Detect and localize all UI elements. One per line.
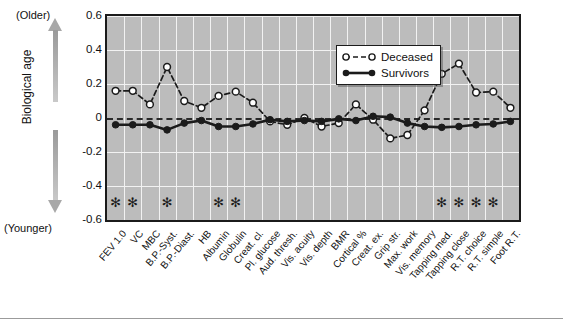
- data-point: [147, 101, 154, 108]
- legend-item-deceased: Deceased: [342, 49, 433, 65]
- data-point: [232, 88, 239, 95]
- y-tick-label: -0.6: [2, 213, 102, 225]
- data-point: [181, 120, 188, 127]
- data-point: [490, 88, 497, 95]
- data-point: [198, 117, 205, 124]
- plot-canvas: ✻✻✻✻✻✻✻✻✻: [107, 16, 519, 220]
- data-point: [301, 117, 308, 124]
- y-tick-label: -0.2: [2, 145, 102, 157]
- data-point: [353, 101, 360, 108]
- data-point: [490, 121, 497, 128]
- significance-asterisk: ✻: [110, 196, 121, 209]
- legend-item-survivors: Survivors: [342, 65, 433, 81]
- data-point: [404, 132, 411, 139]
- data-point: [147, 122, 154, 129]
- bottom-divider: [0, 318, 563, 319]
- data-point: [318, 118, 325, 125]
- legend-swatch-deceased: [342, 51, 376, 63]
- data-point: [387, 135, 394, 142]
- data-point: [267, 116, 274, 123]
- data-point: [421, 107, 428, 114]
- data-point: [456, 60, 463, 67]
- data-point: [335, 116, 342, 123]
- data-series-layer: [107, 16, 519, 220]
- legend-label-survivors: Survivors: [381, 67, 429, 79]
- data-point: [250, 121, 257, 128]
- data-point: [198, 104, 205, 111]
- data-point: [404, 120, 411, 127]
- y-tick-label: 0.6: [2, 9, 102, 21]
- figure-root: (Older) (Younger) Biological age 0.60.40…: [0, 0, 563, 330]
- data-point: [250, 99, 257, 106]
- data-point: [232, 123, 239, 130]
- data-point: [507, 104, 514, 111]
- data-point: [353, 117, 360, 124]
- data-point: [181, 98, 188, 105]
- series-deceased: [112, 60, 514, 142]
- data-point: [370, 113, 377, 120]
- data-point: [215, 123, 222, 130]
- data-point: [129, 122, 136, 129]
- data-point: [215, 93, 222, 100]
- data-point: [507, 118, 514, 125]
- data-point: [456, 123, 463, 130]
- data-point: [164, 64, 171, 71]
- data-point: [112, 87, 119, 94]
- data-point: [284, 118, 291, 125]
- data-point: [129, 87, 136, 94]
- y-tick-label: -0.4: [2, 179, 102, 191]
- data-point: [421, 123, 428, 130]
- y-tick-label: 0.2: [2, 77, 102, 89]
- data-point: [473, 89, 480, 96]
- x-axis-tick-labels: FEV 1.0VCMBCB.P.-Syst.B.P.-Diast.HBAlbum…: [0, 228, 563, 324]
- data-point: [112, 122, 119, 129]
- y-tick-label: 0.4: [2, 43, 102, 55]
- y-tick-label: 0: [2, 111, 102, 123]
- data-point: [473, 122, 480, 129]
- data-point: [164, 127, 171, 134]
- legend-swatch-survivors: [342, 67, 376, 79]
- significance-asterisk: ✻: [162, 196, 173, 209]
- y-axis-tick-labels: 0.60.40.20-0.2-0.4-0.6: [0, 0, 102, 240]
- data-point: [387, 114, 394, 121]
- data-point: [438, 124, 445, 131]
- x-tick-label-text: FEV 1.0: [96, 228, 128, 263]
- legend-label-deceased: Deceased: [381, 51, 433, 63]
- legend: Deceased Survivors: [336, 45, 441, 85]
